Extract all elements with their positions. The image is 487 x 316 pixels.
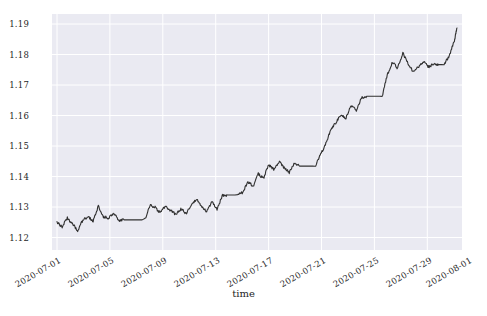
- y-tick-label: 1.14: [0, 173, 29, 182]
- y-tick-label: 1.18: [0, 51, 29, 60]
- gridlines-vertical: [57, 14, 462, 250]
- x-axis-label: time: [0, 288, 487, 299]
- gridlines-horizontal: [52, 24, 462, 238]
- y-tick-label: 1.19: [0, 20, 29, 29]
- y-tick-label: 1.17: [0, 81, 29, 90]
- chart-page: 1.19 1.18 1.17 1.16 1.15 1.14 1.13 1.12: [0, 0, 487, 316]
- y-tick-label: 1.12: [0, 234, 29, 243]
- plot-area: [52, 14, 462, 250]
- y-tick-label: 1.15: [0, 142, 29, 151]
- plot-canvas: [52, 14, 462, 250]
- series-line-rate: [57, 28, 457, 232]
- y-tick-label: 1.13: [0, 203, 29, 212]
- y-tick-label: 1.16: [0, 112, 29, 121]
